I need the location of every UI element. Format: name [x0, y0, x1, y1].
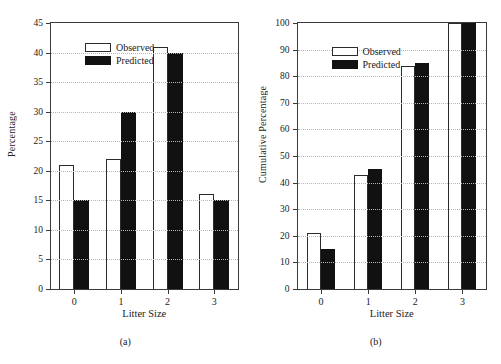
- gridline: [51, 171, 238, 172]
- gridline: [51, 82, 238, 83]
- y-axis-tick: [293, 289, 298, 290]
- legend-label-predicted: Predicted: [363, 58, 401, 71]
- x-axis-tick: [74, 289, 75, 294]
- panel-b: Cumulative Percentage Observed Predicted…: [251, 0, 501, 364]
- bar-predicted-2[interactable]: [415, 63, 429, 289]
- y-axis-tick: [46, 171, 51, 172]
- gridline: [51, 259, 238, 260]
- plot-area-a: Observed Predicted 051015202530354045012…: [50, 22, 239, 290]
- y-axis-tick-label: 60: [280, 124, 290, 134]
- bar-predicted-0[interactable]: [321, 249, 335, 289]
- y-axis-tick: [293, 156, 298, 157]
- y-axis-tick-label: 50: [280, 151, 290, 161]
- bar-observed-0[interactable]: [59, 165, 74, 289]
- legend-swatch-observed-icon: [332, 47, 358, 56]
- x-axis-tick: [321, 289, 322, 294]
- x-axis-title-a: Litter Size: [50, 308, 239, 319]
- y-axis-tick-label: 25: [34, 136, 44, 146]
- bar-predicted-3[interactable]: [214, 200, 229, 289]
- y-axis-tick-label: 80: [280, 71, 290, 81]
- legend-label-predicted: Predicted: [116, 54, 154, 67]
- legend-b: Observed Predicted: [332, 45, 401, 71]
- x-axis-tick: [368, 289, 369, 294]
- legend-swatch-predicted-icon: [332, 60, 358, 69]
- y-axis-tick-label: 30: [280, 204, 290, 214]
- x-axis-tick-label: 0: [319, 296, 324, 307]
- y-axis-tick: [46, 200, 51, 201]
- legend-swatch-observed-icon: [85, 43, 111, 52]
- panel-caption-a: (a): [0, 336, 251, 347]
- legend-swatch-predicted-icon: [85, 56, 111, 65]
- legend-a: Observed Predicted: [85, 41, 154, 67]
- y-axis-tick-label: 0: [285, 284, 290, 294]
- y-axis-tick-label: 20: [280, 231, 290, 241]
- y-axis-tick-label: 70: [280, 98, 290, 108]
- x-axis-tick-label: 1: [118, 296, 123, 307]
- y-axis-tick-label: 0: [38, 284, 43, 294]
- gridline: [51, 200, 238, 201]
- panel-a: Percentage Observed Predicted 0510152025…: [0, 0, 251, 364]
- bar-observed-3[interactable]: [199, 194, 214, 289]
- y-axis-tick-label: 10: [34, 225, 44, 235]
- y-axis-tick: [293, 183, 298, 184]
- legend-item-predicted-a: Predicted: [85, 54, 154, 67]
- y-axis-tick-label: 30: [34, 107, 44, 117]
- gridline: [51, 112, 238, 113]
- y-axis-tick: [46, 53, 51, 54]
- y-axis-tick-label: 10: [280, 257, 290, 267]
- bar-observed-2[interactable]: [401, 66, 415, 289]
- y-axis-tick-label: 90: [280, 45, 290, 55]
- y-axis-tick: [46, 112, 51, 113]
- x-axis-tick: [214, 289, 215, 294]
- legend-label-observed: Observed: [116, 41, 154, 54]
- x-axis-tick: [121, 289, 122, 294]
- y-axis-tick-label: 20: [34, 166, 44, 176]
- gridline: [51, 230, 238, 231]
- legend-item-observed-b: Observed: [332, 45, 401, 58]
- y-axis-tick: [293, 262, 298, 263]
- y-axis-title-b: Cumulative Percentage: [253, 0, 271, 268]
- y-axis-tick: [293, 76, 298, 77]
- bar-predicted-0[interactable]: [74, 200, 89, 289]
- figure-two-panel-bar-charts: Percentage Observed Predicted 0510152025…: [0, 0, 501, 364]
- x-axis-tick-label: 3: [460, 296, 465, 307]
- bar-observed-0[interactable]: [307, 233, 321, 289]
- x-axis-tick-label: 3: [212, 296, 217, 307]
- bar-predicted-1[interactable]: [368, 169, 382, 289]
- legend-item-predicted-b: Predicted: [332, 58, 401, 71]
- x-axis-title-b: Litter Size: [297, 308, 488, 319]
- gridline: [298, 183, 487, 184]
- y-axis-tick-label: 40: [34, 48, 44, 58]
- y-axis-tick: [293, 23, 298, 24]
- y-axis-tick: [46, 289, 51, 290]
- y-axis-tick: [46, 141, 51, 142]
- x-axis-tick-label: 0: [72, 296, 77, 307]
- y-axis-tick-label: 40: [280, 178, 290, 188]
- y-axis-tick-label: 45: [34, 18, 44, 28]
- gridline: [298, 129, 487, 130]
- gridline: [51, 141, 238, 142]
- y-axis-tick: [46, 230, 51, 231]
- legend-item-observed-a: Observed: [85, 41, 154, 54]
- y-axis-tick: [293, 209, 298, 210]
- y-axis-tick: [46, 259, 51, 260]
- x-axis-tick-label: 1: [366, 296, 371, 307]
- y-axis-tick-label: 100: [275, 18, 289, 28]
- x-axis-tick: [415, 289, 416, 294]
- gridline: [298, 156, 487, 157]
- y-axis-tick: [293, 129, 298, 130]
- y-axis-tick-label: 15: [34, 195, 44, 205]
- legend-label-observed: Observed: [363, 45, 401, 58]
- y-axis-tick: [293, 236, 298, 237]
- gridline: [298, 209, 487, 210]
- panel-caption-b: (b): [251, 336, 501, 347]
- bar-observed-1[interactable]: [106, 159, 121, 289]
- plot-area-b: Observed Predicted 010203040506070809010…: [297, 22, 488, 290]
- gridline: [298, 236, 487, 237]
- y-axis-tick: [46, 23, 51, 24]
- x-axis-tick-label: 2: [413, 296, 418, 307]
- bar-observed-1[interactable]: [354, 175, 368, 289]
- y-axis-tick: [293, 103, 298, 104]
- x-axis-tick: [168, 289, 169, 294]
- x-axis-tick: [462, 289, 463, 294]
